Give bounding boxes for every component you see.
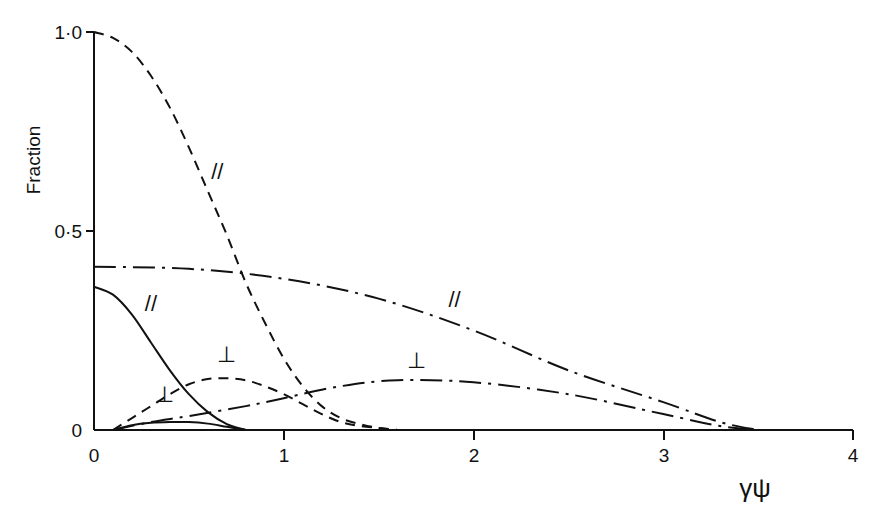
x-tick-label-3: 3 bbox=[659, 445, 670, 466]
y-tick-label-1: 1·0 bbox=[55, 22, 82, 43]
y-axis-title: Fraction bbox=[23, 126, 44, 195]
fraction-chart: //////⊥⊥⊥ 1·0 0·5 0 0 1 2 3 4 Fraction γ… bbox=[0, 0, 877, 509]
curve-labels: //////⊥⊥⊥ bbox=[145, 159, 462, 407]
x-tick-label-0: 0 bbox=[89, 445, 100, 466]
curve-label-perpendicular: ⊥ bbox=[407, 348, 426, 373]
curve-label-parallel: // bbox=[145, 291, 158, 316]
curve-label-perpendicular: ⊥ bbox=[217, 342, 236, 367]
y-tick-label-0: 0 bbox=[71, 420, 82, 441]
x-tick-label-2: 2 bbox=[469, 445, 480, 466]
axes bbox=[86, 32, 853, 440]
curve-label-perpendicular: ⊥ bbox=[155, 382, 174, 407]
x-axis-title: γψ bbox=[739, 473, 771, 503]
curve-label-parallel: // bbox=[211, 159, 224, 184]
y-tick-label-05: 0·5 bbox=[55, 221, 82, 242]
x-tick-label-1: 1 bbox=[279, 445, 290, 466]
x-tick-label-4: 4 bbox=[848, 445, 859, 466]
curve-label-parallel: // bbox=[448, 287, 461, 312]
curve-dashed-parallel bbox=[94, 32, 398, 430]
curve-dashdot-perpendicular bbox=[113, 380, 758, 430]
